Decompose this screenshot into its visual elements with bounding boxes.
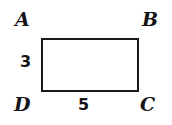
- vertex-label-d: D: [14, 95, 30, 114]
- geometry-figure-canvas: A B C D 3 5: [0, 0, 172, 125]
- vertex-label-b: B: [142, 10, 158, 29]
- side-length-label-width: 5: [78, 97, 89, 113]
- vertex-label-c: C: [140, 95, 155, 114]
- rectangle-abcd-shape: [41, 38, 139, 92]
- vertex-label-a: A: [15, 10, 30, 29]
- side-length-label-height: 3: [20, 54, 31, 70]
